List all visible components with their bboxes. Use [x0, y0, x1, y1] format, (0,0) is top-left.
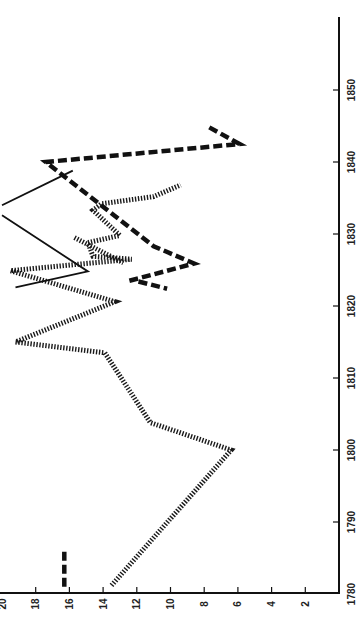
year-tick-label: 1780 [346, 582, 357, 605]
series-line [139, 282, 168, 289]
series-bold-dashed [46, 127, 240, 586]
series-line [2, 215, 88, 287]
value-tick-label: 2 [300, 601, 311, 607]
value-tick-label: 20 [0, 598, 8, 610]
value-tick-label: 16 [64, 598, 75, 610]
value-tick-label: 8 [199, 601, 210, 607]
value-tick-label: 6 [232, 601, 243, 607]
value-ticks: 2468101214161820 [0, 587, 311, 610]
year-tick-label: 1790 [346, 510, 357, 533]
rotated-line-chart: 17801790180018101820183018401850 2468101… [0, 0, 364, 631]
value-tick-label: 4 [266, 601, 277, 607]
value-tick-label: 10 [165, 598, 176, 610]
series-line [10, 185, 231, 585]
year-tick-label: 1840 [346, 150, 357, 173]
year-tick-label: 1810 [346, 366, 357, 389]
series-line [2, 171, 73, 206]
year-tick-label: 1820 [346, 294, 357, 317]
series-group [2, 127, 240, 586]
series-dotted [10, 185, 231, 585]
value-tick-label: 18 [30, 598, 41, 610]
series-line [46, 127, 240, 281]
year-tick-label: 1850 [346, 78, 357, 101]
axes: 17801790180018101820183018401850 2468101… [0, 17, 357, 610]
value-tick-label: 14 [98, 598, 109, 610]
year-tick-label: 1800 [346, 438, 357, 461]
year-tick-label: 1830 [346, 222, 357, 245]
year-ticks: 17801790180018101820183018401850 [333, 78, 357, 605]
value-tick-label: 12 [131, 598, 142, 610]
